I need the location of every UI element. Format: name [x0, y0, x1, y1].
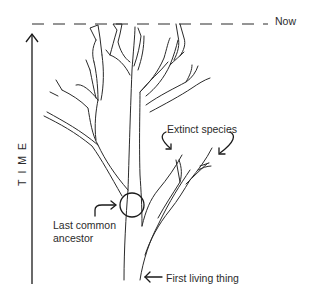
tree-of-life-diagram: [0, 0, 312, 304]
last-common-ancestor-label: Last common ancestor: [53, 219, 116, 245]
time-axis-label: TIME: [16, 146, 28, 186]
ancestor-circle: [120, 193, 144, 217]
last-common-ancestor-line1: Last common: [53, 219, 116, 232]
ancestor-arrow-icon: [95, 201, 116, 216]
first-living-thing-label: First living thing: [166, 272, 239, 284]
now-label: Now: [275, 15, 296, 27]
last-common-ancestor-line2: ancestor: [53, 232, 116, 245]
extinct-arrow-right-icon: [219, 132, 233, 154]
first-living-arrow-icon: [145, 272, 162, 282]
extinct-species-label: Extinct species: [167, 123, 237, 135]
